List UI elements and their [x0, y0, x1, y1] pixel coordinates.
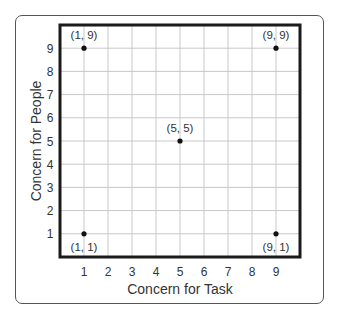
y-axis-title: Concern for People — [28, 80, 44, 201]
point-label: (9, 1) — [263, 241, 290, 253]
y-tick-label: 6 — [47, 111, 54, 125]
x-tick-label: 2 — [105, 265, 112, 279]
data-point: (1, 9) — [71, 29, 98, 51]
data-point: (9, 1) — [263, 231, 290, 253]
point-label: (1, 9) — [71, 29, 98, 41]
x-tick-label: 7 — [225, 265, 232, 279]
point-label: (1, 1) — [71, 241, 98, 253]
y-axis-ticks: 123456789 — [47, 42, 54, 242]
y-tick-label: 5 — [47, 135, 54, 149]
x-tick-label: 3 — [129, 265, 136, 279]
x-tick-label: 6 — [201, 265, 208, 279]
y-tick-label: 2 — [47, 204, 54, 218]
y-tick-label: 4 — [47, 158, 54, 172]
x-tick-label: 8 — [249, 265, 256, 279]
point-marker — [273, 231, 278, 236]
point-marker — [81, 46, 86, 51]
y-tick-label: 9 — [47, 42, 54, 56]
x-tick-label: 5 — [177, 265, 184, 279]
y-tick-label: 8 — [47, 65, 54, 79]
point-label: (5, 5) — [167, 122, 194, 134]
managerial-grid-chart: 123456789 123456789 (1, 9)(9, 9)(5, 5)(1… — [0, 0, 341, 320]
y-tick-label: 3 — [47, 181, 54, 195]
data-point: (1, 1) — [71, 231, 98, 253]
data-point: (5, 5) — [167, 122, 194, 144]
x-axis-title: Concern for Task — [127, 281, 234, 297]
x-tick-label: 4 — [153, 265, 160, 279]
point-marker — [81, 231, 86, 236]
point-marker — [273, 46, 278, 51]
point-marker — [177, 138, 182, 143]
x-tick-label: 9 — [273, 265, 280, 279]
x-tick-label: 1 — [81, 265, 88, 279]
y-tick-label: 1 — [47, 227, 54, 241]
point-label: (9, 9) — [263, 29, 290, 41]
x-axis-ticks: 123456789 — [81, 265, 280, 279]
data-point: (9, 9) — [263, 29, 290, 51]
y-tick-label: 7 — [47, 88, 54, 102]
